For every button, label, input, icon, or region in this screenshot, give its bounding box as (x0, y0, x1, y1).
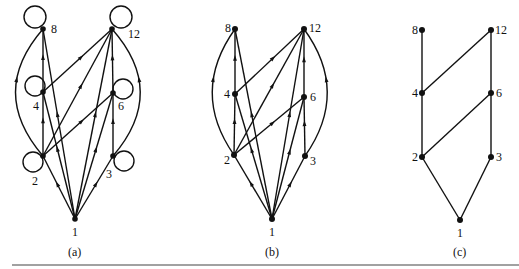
caption-a: (a) (68, 245, 81, 259)
arrowhead-icon (111, 118, 115, 124)
edge-2-to-6 (43, 93, 113, 156)
vertex-4 (40, 89, 46, 95)
edge-1-to-4 (43, 92, 75, 219)
vertex-6 (301, 94, 307, 100)
arrowhead-icon (302, 56, 306, 62)
vertex-label-4: 4 (33, 99, 39, 113)
vertex-label-3: 3 (106, 167, 112, 181)
vertex-label-6: 6 (496, 86, 502, 100)
vertex-3 (302, 153, 308, 159)
vertex-8 (419, 27, 425, 33)
vertex-4 (232, 91, 238, 97)
arrowhead-icon (270, 83, 274, 89)
vertex-12 (301, 26, 307, 32)
self-loop-6 (113, 79, 133, 99)
arrowhead-icon (111, 55, 115, 61)
caption-c: (c) (453, 245, 466, 259)
arrowhead-icon (56, 181, 60, 187)
vertex-label-1: 1 (269, 225, 275, 239)
edge-1-to-8 (235, 29, 272, 219)
vertex-8 (232, 26, 238, 32)
edge-2-to-6 (422, 93, 491, 157)
vertex-label-6: 6 (310, 90, 316, 104)
arrowhead-icon (78, 83, 82, 89)
divisibility-hasse-diagram-figure: 12346812 12346812 12346812 (a) (b) (c) (0, 0, 519, 269)
vertex-label-8: 8 (225, 21, 231, 35)
arrowhead-icon (303, 120, 307, 126)
vertex-3 (110, 153, 116, 159)
vertex-2 (419, 154, 425, 160)
arrowhead-icon (93, 147, 97, 153)
subfigure-a-digraph-with-loops: 12346812 (14, 6, 141, 239)
vertex-label-4: 4 (224, 87, 230, 101)
edge-1-to-3 (460, 157, 491, 220)
vertex-label-1: 1 (457, 226, 463, 240)
vertex-label-4: 4 (412, 86, 418, 100)
arrowhead-icon (56, 146, 60, 152)
vertex-12 (109, 26, 115, 32)
edge-3-to-6 (304, 97, 305, 156)
self-loop-3 (114, 151, 134, 171)
vertex-label-8: 8 (51, 22, 57, 36)
arc-edge-2-to-8 (16, 29, 44, 156)
vertex-6 (488, 90, 494, 96)
vertex-label-2: 2 (224, 153, 230, 167)
vertex-label-12: 12 (128, 27, 140, 41)
edge-6-to-12 (112, 29, 113, 93)
arrowhead-icon (233, 55, 237, 61)
vertex-1 (269, 216, 275, 222)
edge-1-to-6 (272, 97, 304, 219)
caption-b: (b) (265, 245, 279, 259)
self-loop-12 (110, 6, 132, 28)
edge-1-to-6 (75, 93, 113, 219)
arrowhead-icon (287, 149, 291, 155)
arrowhead-icon (287, 182, 291, 188)
vertex-1 (72, 216, 78, 222)
vertex-3 (488, 154, 494, 160)
vertex-label-1: 1 (72, 225, 78, 239)
edge-2-to-4 (234, 94, 235, 155)
vertex-label-3: 3 (496, 150, 502, 164)
vertex-label-2: 2 (412, 150, 418, 164)
edge-4-to-12 (235, 29, 304, 94)
vertex-6 (110, 90, 116, 96)
self-loop-8 (24, 6, 46, 28)
arrowhead-icon (41, 118, 45, 124)
vertex-label-2: 2 (32, 174, 38, 188)
arrowhead-icon (251, 147, 255, 153)
arrowhead-icon (41, 54, 45, 60)
edge-1-to-2 (422, 157, 460, 220)
vertex-2 (40, 153, 46, 159)
vertex-label-12: 12 (495, 23, 507, 37)
vertex-4 (419, 90, 425, 96)
vertex-label-8: 8 (412, 23, 418, 37)
vertex-label-12: 12 (309, 21, 321, 35)
edge-1-to-8 (43, 29, 75, 219)
edge-1-to-4 (235, 94, 272, 219)
arrowhead-icon (93, 182, 98, 188)
subfigure-c-hasse-diagram: 12346812 (412, 23, 507, 240)
vertex-label-3: 3 (310, 154, 316, 168)
edge-4-to-12 (422, 30, 491, 93)
arrowhead-icon (233, 118, 237, 124)
vertex-label-6: 6 (118, 99, 124, 113)
vertex-2 (231, 152, 237, 158)
subfigure-b-digraph-no-loops: 12346812 (211, 21, 329, 239)
vertex-1 (457, 217, 463, 223)
vertex-12 (488, 27, 494, 33)
arc-edge-3-to-12 (112, 29, 140, 156)
vertex-8 (40, 26, 46, 32)
arrowhead-icon (249, 181, 254, 187)
self-loop-2 (23, 152, 43, 172)
